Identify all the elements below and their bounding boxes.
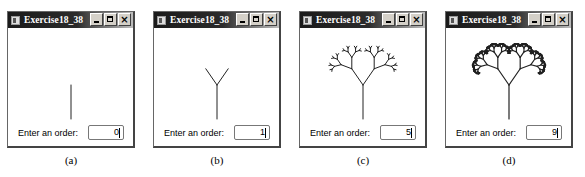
figure-caption: (c) bbox=[299, 154, 427, 166]
maximize-button[interactable] bbox=[104, 13, 117, 26]
app-window: Exercise18_38 × Enter an order: 0 bbox=[7, 11, 135, 148]
minimize-button[interactable] bbox=[90, 13, 103, 26]
window-title: Exercise18_38 bbox=[24, 15, 83, 25]
tree-canvas bbox=[8, 28, 134, 123]
tree-canvas bbox=[154, 28, 280, 123]
order-input[interactable]: 1 bbox=[234, 125, 270, 140]
window-title: Exercise18_38 bbox=[170, 15, 229, 25]
title-bar[interactable]: Exercise18_38 × bbox=[154, 12, 279, 28]
title-bar[interactable]: Exercise18_38 × bbox=[300, 12, 425, 28]
title-bar[interactable]: Exercise18_38 × bbox=[8, 12, 133, 28]
order-label: Enter an order: bbox=[18, 128, 78, 138]
order-value: 5 bbox=[406, 127, 411, 137]
window-panel-b: Exercise18_38 × Enter an order: 1 (b) bbox=[153, 11, 283, 166]
title-bar[interactable]: Exercise18_38 × bbox=[446, 12, 571, 28]
order-value: 1 bbox=[260, 127, 265, 137]
figure-caption: (a) bbox=[7, 154, 135, 166]
app-icon[interactable] bbox=[11, 16, 20, 25]
figure-caption: (b) bbox=[153, 154, 281, 166]
order-label: Enter an order: bbox=[310, 128, 370, 138]
order-value: 0 bbox=[114, 127, 119, 137]
minimize-button[interactable] bbox=[528, 13, 541, 26]
app-icon[interactable] bbox=[449, 16, 458, 25]
figure-caption: (d) bbox=[445, 154, 573, 166]
window-panel-a: Exercise18_38 × Enter an order: 0 (a) bbox=[7, 11, 137, 166]
app-window: Exercise18_38 × Enter an order: 1 bbox=[153, 11, 281, 148]
order-label: Enter an order: bbox=[456, 128, 516, 138]
window-title: Exercise18_38 bbox=[462, 15, 521, 25]
close-button[interactable]: × bbox=[264, 13, 277, 26]
close-button[interactable]: × bbox=[410, 13, 423, 26]
maximize-button[interactable] bbox=[250, 13, 263, 26]
maximize-button[interactable] bbox=[542, 13, 555, 26]
maximize-button[interactable] bbox=[396, 13, 409, 26]
app-icon[interactable] bbox=[157, 16, 166, 25]
app-icon[interactable] bbox=[303, 16, 312, 25]
minimize-button[interactable] bbox=[382, 13, 395, 26]
app-window: Exercise18_38 × Enter an order: 5 bbox=[299, 11, 427, 148]
order-input[interactable]: 0 bbox=[88, 125, 124, 140]
close-button[interactable]: × bbox=[556, 13, 569, 26]
tree-canvas bbox=[300, 28, 426, 123]
order-value: 9 bbox=[552, 127, 557, 137]
order-input[interactable]: 9 bbox=[526, 125, 562, 140]
window-title: Exercise18_38 bbox=[316, 15, 375, 25]
minimize-button[interactable] bbox=[236, 13, 249, 26]
app-window: Exercise18_38 × Enter an order: 9 bbox=[445, 11, 573, 148]
order-input[interactable]: 5 bbox=[380, 125, 416, 140]
window-panel-c: Exercise18_38 × Enter an order: 5 (c) bbox=[299, 11, 429, 166]
order-label: Enter an order: bbox=[164, 128, 224, 138]
tree-canvas bbox=[446, 28, 572, 123]
close-button[interactable]: × bbox=[118, 13, 131, 26]
window-panel-d: Exercise18_38 × Enter an order: 9 (d) bbox=[445, 11, 575, 166]
